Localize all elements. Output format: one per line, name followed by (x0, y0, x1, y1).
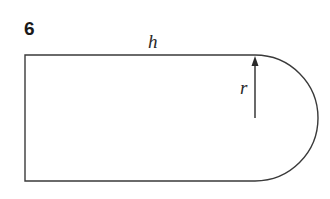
rectangle-semicircle-outline (25, 55, 318, 181)
diagram-canvas: 6 h r (0, 0, 330, 199)
length-label-h: h (148, 31, 158, 52)
radius-arrow-head-icon (252, 56, 259, 66)
radius-label-r: r (240, 77, 248, 98)
question-number: 6 (24, 18, 35, 39)
